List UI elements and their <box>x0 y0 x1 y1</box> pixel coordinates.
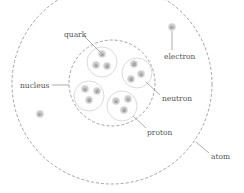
atom-diagram: u u d d d u u d d u u d e- e- quark elec… <box>0 0 244 193</box>
nucleon-proton-bottom: u u d <box>107 91 137 121</box>
label-neutron: neutron <box>162 94 192 103</box>
nucleon-proton-top: u u d <box>87 47 117 77</box>
label-electron: electron <box>164 52 196 61</box>
atom-boundary <box>12 0 212 184</box>
label-nucleus: nucleus <box>20 81 50 90</box>
svg-text:e-: e- <box>38 111 43 117</box>
nucleon-proton-left: u d d <box>74 81 104 111</box>
electron-left: e- <box>36 110 44 118</box>
quark-leader <box>85 37 100 52</box>
neutron-leader <box>146 82 160 95</box>
atom-leader <box>196 142 209 153</box>
label-quark: quark <box>64 30 87 39</box>
proton-leader <box>133 116 146 128</box>
svg-text:e-: e- <box>170 24 175 30</box>
label-atom: atom <box>211 152 230 161</box>
label-proton: proton <box>147 128 172 137</box>
electron-top-right: e- <box>168 23 176 31</box>
